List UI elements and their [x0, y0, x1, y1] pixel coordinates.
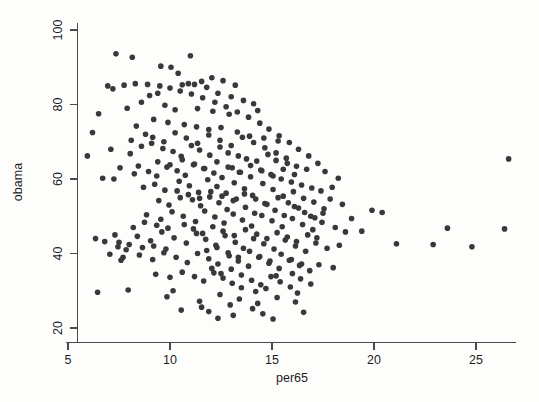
- data-point: [194, 124, 200, 130]
- data-point: [220, 228, 226, 234]
- data-point: [273, 273, 279, 279]
- data-point: [228, 266, 234, 272]
- data-point: [239, 285, 245, 291]
- data-point: [160, 146, 166, 152]
- data-point: [301, 310, 307, 316]
- data-point: [150, 257, 156, 263]
- data-point: [264, 236, 270, 242]
- data-point: [273, 150, 279, 156]
- data-point: [299, 182, 305, 188]
- data-point: [225, 150, 231, 156]
- data-point: [262, 145, 268, 151]
- data-point: [218, 125, 224, 131]
- data-point: [251, 140, 257, 146]
- data-point: [274, 230, 280, 236]
- data-point: [259, 213, 265, 219]
- data-point: [267, 258, 273, 264]
- data-point: [189, 143, 195, 149]
- data-point: [308, 281, 314, 287]
- data-point: [270, 173, 276, 179]
- data-point: [171, 235, 177, 241]
- data-point: [307, 268, 313, 274]
- data-point: [168, 64, 174, 70]
- data-point: [167, 275, 173, 281]
- data-point: [162, 102, 168, 108]
- data-point: [141, 184, 147, 190]
- data-point: [197, 196, 203, 202]
- data-point: [304, 167, 310, 173]
- data-point: [311, 199, 317, 205]
- data-point: [289, 257, 295, 263]
- x-tick-label: 25: [469, 353, 483, 367]
- data-point: [209, 75, 215, 81]
- data-point: [219, 175, 225, 181]
- data-point: [209, 266, 215, 272]
- data-point: [204, 248, 210, 254]
- data-point: [217, 137, 223, 143]
- data-point: [305, 232, 311, 238]
- chart-figure: 20406080100 510152025 per65 obama: [0, 0, 539, 402]
- data-point: [144, 212, 150, 218]
- data-point: [274, 295, 280, 301]
- data-point: [107, 251, 113, 257]
- data-point: [195, 106, 201, 112]
- data-point: [172, 107, 178, 113]
- data-point: [243, 205, 249, 211]
- data-point: [260, 181, 266, 187]
- data-point: [189, 91, 195, 97]
- data-point: [285, 161, 291, 167]
- data-point: [322, 169, 328, 175]
- data-point: [179, 157, 185, 163]
- data-point: [200, 231, 206, 237]
- data-point: [246, 263, 252, 269]
- data-point: [215, 261, 221, 267]
- data-point: [235, 109, 241, 115]
- data-point: [121, 82, 127, 88]
- data-point: [147, 93, 153, 99]
- data-point: [140, 245, 146, 251]
- data-point: [210, 108, 216, 114]
- data-point: [128, 137, 134, 143]
- data-point: [165, 225, 171, 231]
- data-point: [201, 278, 207, 284]
- data-point: [154, 222, 160, 228]
- data-point: [247, 133, 253, 139]
- data-point: [349, 216, 355, 222]
- data-point: [95, 289, 101, 295]
- data-point: [266, 126, 272, 132]
- data-point: [192, 274, 198, 280]
- data-point: [259, 168, 265, 174]
- data-point: [145, 82, 151, 88]
- data-point: [150, 134, 156, 140]
- data-point: [102, 239, 108, 245]
- data-point: [161, 139, 167, 145]
- data-point: [96, 111, 102, 117]
- data-point: [183, 172, 189, 178]
- data-point: [236, 153, 242, 159]
- data-point: [294, 164, 300, 170]
- data-point: [207, 194, 213, 200]
- data-point: [264, 202, 270, 208]
- data-point: [214, 245, 220, 251]
- data-point: [301, 196, 307, 202]
- data-point: [230, 211, 236, 217]
- data-point: [249, 223, 255, 229]
- data-point: [196, 190, 202, 196]
- data-point: [275, 138, 281, 144]
- data-point: [172, 130, 178, 136]
- data-point: [90, 130, 96, 136]
- data-point: [184, 240, 190, 246]
- data-point: [179, 269, 185, 275]
- data-point: [241, 245, 247, 251]
- data-point: [240, 134, 246, 140]
- data-point: [199, 304, 205, 310]
- data-point: [283, 155, 289, 161]
- data-point: [206, 132, 212, 138]
- data-point: [176, 178, 182, 184]
- data-point: [248, 174, 254, 180]
- data-point: [287, 140, 293, 146]
- data-point: [261, 135, 267, 141]
- data-point: [163, 246, 169, 252]
- data-point: [219, 193, 225, 199]
- y-axis-ticks: 20406080100: [51, 20, 77, 335]
